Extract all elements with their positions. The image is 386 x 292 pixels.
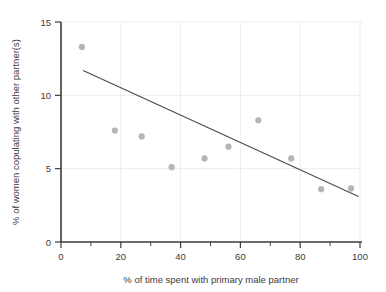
y-tick-label: 0	[46, 237, 51, 248]
trend-line	[83, 70, 358, 196]
data-point	[169, 164, 175, 170]
y-tick-label: 10	[40, 90, 51, 101]
x-tick-labels: 020406080100	[58, 251, 368, 262]
data-point	[318, 186, 324, 192]
data-point	[255, 117, 261, 123]
x-tick-label: 0	[58, 251, 63, 262]
plot-svg: 020406080100 051015 % of time spent with…	[0, 0, 386, 292]
data-points	[79, 44, 354, 192]
data-point	[112, 127, 118, 133]
data-point	[225, 144, 231, 150]
axis-major-ticks	[55, 22, 360, 248]
y-axis-title: % of women copulating with other partner…	[10, 39, 21, 225]
x-tick-label: 100	[352, 251, 368, 262]
y-tick-label: 15	[40, 17, 51, 28]
scatter-chart: 020406080100 051015 % of time spent with…	[0, 0, 386, 292]
x-tick-label: 80	[295, 251, 306, 262]
data-point	[348, 185, 354, 191]
data-point	[288, 155, 294, 161]
x-tick-label: 20	[116, 251, 127, 262]
gridlines	[61, 22, 362, 242]
data-point	[139, 133, 145, 139]
x-axis-title: % of time spent with primary male partne…	[123, 274, 298, 285]
y-tick-label: 5	[46, 163, 51, 174]
data-point	[201, 155, 207, 161]
y-tick-labels: 051015	[40, 17, 51, 248]
data-point	[79, 44, 85, 50]
x-tick-label: 40	[175, 251, 186, 262]
x-tick-label: 60	[235, 251, 246, 262]
